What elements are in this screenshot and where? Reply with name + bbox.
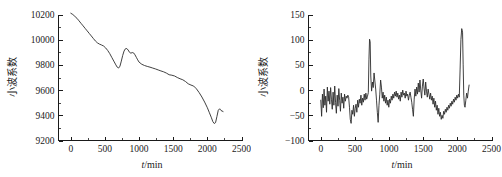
x-tick-label: 0 (318, 144, 323, 154)
x-tick-label: 2000 (198, 144, 217, 154)
x-tick-label: 1000 (130, 144, 149, 154)
y-tick-label: 9400 (36, 111, 55, 121)
left-data-curve (71, 13, 223, 123)
right-tick-labels: 05001000150020002500−100−50050100150 (285, 10, 501, 154)
figure-container: 0500100015002000250092009400960098001000… (0, 0, 502, 177)
y-tick-label: 9600 (36, 86, 55, 96)
y-tick-label: 10000 (31, 35, 55, 45)
right-tick-marks (309, 16, 493, 142)
right-y-axis-title: 小波系数 (257, 57, 269, 97)
right-data-curve (321, 29, 469, 124)
y-tick-label: 10200 (31, 10, 55, 20)
y-tick-label: 9800 (36, 60, 55, 70)
x-tick-label: 1500 (414, 144, 433, 154)
x-tick-label: 500 (348, 144, 363, 154)
left-tick-labels: 0500100015002000250092009400960098001000… (31, 10, 251, 154)
left-chart-svg: 0500100015002000250092009400960098001000… (0, 0, 251, 177)
left-x-axis-title: t/min (141, 159, 162, 170)
chart-panel-right: 05001000150020002500−100−50050100150 t/m… (251, 0, 502, 177)
x-tick-label: 2500 (482, 144, 501, 154)
right-x-axis-title: t/min (391, 159, 412, 170)
y-tick-label: 50 (295, 60, 305, 70)
chart-panel-left: 0500100015002000250092009400960098001000… (0, 0, 251, 177)
y-tick-label: −50 (290, 111, 305, 121)
y-tick-label: −100 (285, 136, 305, 146)
right-chart-svg: 05001000150020002500−100−50050100150 t/m… (251, 0, 502, 177)
x-tick-label: 0 (68, 144, 73, 154)
left-axes (59, 15, 243, 142)
right-axes (309, 15, 493, 142)
x-tick-label: 1500 (164, 144, 183, 154)
left-y-axis-title: 小波系数 (6, 57, 18, 97)
x-tick-label: 2500 (232, 144, 251, 154)
y-tick-label: 0 (300, 86, 305, 96)
x-tick-label: 500 (98, 144, 113, 154)
x-tick-label: 2000 (448, 144, 467, 154)
y-tick-label: 9200 (36, 136, 55, 146)
y-tick-label: 150 (290, 10, 305, 20)
y-tick-label: 100 (290, 35, 305, 45)
x-tick-label: 1000 (380, 144, 399, 154)
